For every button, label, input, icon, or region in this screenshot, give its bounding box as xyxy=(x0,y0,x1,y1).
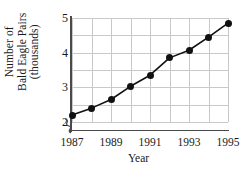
y-axis-tick-label: 3 xyxy=(42,81,68,93)
y-axis-title: Number of Bald Eagle Pairs (thousands) xyxy=(3,0,41,118)
data-point xyxy=(69,112,76,119)
x-axis-title-text: Year xyxy=(128,152,149,164)
x-axis-tick-label: 1989 xyxy=(91,136,131,148)
eagle-pairs-line-chart: Number of Bald Eagle Pairs (thousands) 2… xyxy=(0,0,241,189)
grid-line-vertical xyxy=(228,18,229,122)
data-point xyxy=(108,96,115,103)
x-axis-tick-label: 1995 xyxy=(208,136,241,148)
data-point xyxy=(205,34,212,41)
y-axis-tick-label: 4 xyxy=(42,47,68,59)
y-axis-title-line-1: Number of xyxy=(3,0,16,118)
y-axis-title-line-3: (thousands) xyxy=(28,0,41,118)
data-point xyxy=(186,47,193,54)
y-axis-title-line-2: Bald Eagle Pairs xyxy=(16,0,29,118)
series-line xyxy=(72,18,228,122)
x-axis-tick-label: 1993 xyxy=(169,136,209,148)
x-axis-line xyxy=(72,130,229,131)
data-point xyxy=(88,105,95,112)
data-point xyxy=(147,72,154,79)
y-axis-tick-label: 5 xyxy=(42,12,68,24)
data-point xyxy=(225,20,232,27)
grid-line-horizontal xyxy=(72,122,228,123)
x-axis-tick-labels: 19871989199119931995 xyxy=(0,136,241,152)
data-point xyxy=(127,83,134,90)
data-series xyxy=(72,18,228,122)
x-axis-tick-label: 1987 xyxy=(52,136,92,148)
x-axis-tick-label: 1991 xyxy=(130,136,170,148)
plot-area xyxy=(72,18,228,122)
x-axis-title: Year xyxy=(0,152,241,164)
